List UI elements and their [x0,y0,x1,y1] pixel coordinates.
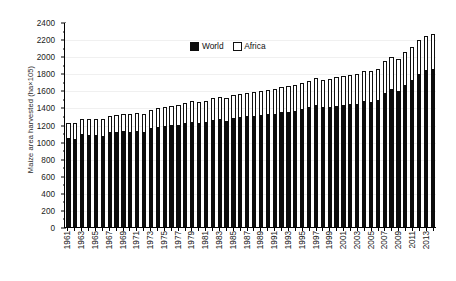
stacked-bar[interactable] [293,85,297,227]
stacked-bar[interactable] [307,81,311,227]
bar-segment-world [362,101,366,227]
stacked-bar[interactable] [355,74,359,227]
stacked-bar[interactable] [197,102,201,227]
stacked-bar[interactable] [169,106,173,227]
bar-slot [223,23,230,227]
stacked-bar[interactable] [252,92,256,227]
stacked-bar[interactable] [204,101,208,227]
stacked-bar[interactable] [389,57,393,227]
bar-segment-world [238,117,242,227]
bar-segment-africa [238,94,242,117]
bar-slot [237,23,244,227]
bar-segment-africa [328,79,332,107]
bar-segment-africa [410,47,414,80]
bar-segment-world [183,123,187,227]
bar-slot [203,23,210,227]
bar-segment-world [73,139,77,227]
stacked-bar[interactable] [259,91,263,227]
stacked-bar[interactable] [156,108,160,227]
x-axis-slot: 1999 [326,229,333,281]
stacked-bar[interactable] [334,77,338,227]
x-axis-labels: 1961196319651967196919711973197519771979… [64,229,436,281]
stacked-bar[interactable] [314,78,318,227]
stacked-bar[interactable] [87,119,91,227]
bar-slot [306,23,313,227]
bar-segment-africa [224,98,228,120]
stacked-bar[interactable] [362,71,366,227]
stacked-bar[interactable] [94,119,98,227]
stacked-bar[interactable] [176,105,180,227]
stacked-bar[interactable] [431,34,435,227]
stacked-bar[interactable] [396,59,400,227]
y-axis-tick-label: 1000 [37,138,55,147]
stacked-bar[interactable] [163,107,167,227]
bar-segment-africa [300,83,304,109]
stacked-bar[interactable] [224,98,228,227]
stacked-bar[interactable] [273,89,277,227]
x-axis-tick [198,228,199,231]
bar-segment-world [348,104,352,227]
bar-segment-world [190,122,194,227]
stacked-bar[interactable] [403,52,407,227]
stacked-bar[interactable] [369,71,373,227]
y-axis-tick-label: 800 [41,155,55,164]
stacked-bar[interactable] [321,80,325,227]
bar-slot [271,23,278,227]
bar-segment-world [266,114,270,227]
bar-slot [423,23,430,227]
bar-segment-world [169,125,173,227]
bar-segment-world [121,131,125,227]
stacked-bar[interactable] [279,87,283,227]
bar-segment-africa [321,80,325,108]
stacked-bar[interactable] [410,47,414,227]
stacked-bar[interactable] [341,76,345,227]
x-axis-slot: 1993 [285,229,292,281]
stacked-bar[interactable] [300,83,304,227]
stacked-bar[interactable] [348,75,352,227]
bar-segment-africa [273,89,277,114]
stacked-bar[interactable] [266,90,270,227]
stacked-bar[interactable] [108,116,112,227]
stacked-bar[interactable] [128,114,132,227]
x-axis-tick [309,228,310,231]
stacked-bar[interactable] [383,61,387,227]
bar-segment-africa [245,93,249,116]
bar-segment-world [410,80,414,227]
bar-segment-africa [135,113,139,131]
bar-segment-africa [389,57,393,89]
stacked-bar[interactable] [286,86,290,227]
x-axis-slot: 1991 [271,229,278,281]
y-axis-tick-label: 600 [41,172,55,181]
stacked-bar[interactable] [328,79,332,227]
stacked-bar[interactable] [73,123,77,227]
x-axis-tick [143,228,144,231]
stacked-bar[interactable] [66,123,70,227]
stacked-bar[interactable] [424,36,428,227]
stacked-bar[interactable] [231,95,235,227]
stacked-bar[interactable] [142,114,146,227]
stacked-bar[interactable] [190,101,194,227]
stacked-bar[interactable] [238,94,242,227]
stacked-bar[interactable] [183,103,187,227]
bar-segment-world [211,120,215,227]
legend-item[interactable]: Africa [233,41,266,51]
stacked-bar[interactable] [149,110,153,227]
stacked-bar[interactable] [114,115,118,227]
bar-segment-world [259,115,263,227]
x-axis-slot: 2005 [367,229,374,281]
x-axis-slot: 1979 [188,229,195,281]
stacked-bar[interactable] [218,97,222,227]
stacked-bar[interactable] [417,40,421,227]
stacked-bar[interactable] [376,69,380,227]
bar-slot [216,23,223,227]
maize-area-harvested-chart: Maize area harvested (ha×105) 0200400600… [0,0,456,281]
stacked-bar[interactable] [121,114,125,227]
bar-slot [285,23,292,227]
stacked-bar[interactable] [80,119,84,227]
stacked-bar[interactable] [101,119,105,227]
stacked-bar[interactable] [245,93,249,227]
stacked-bar[interactable] [135,113,139,227]
x-axis-tick [185,228,186,231]
stacked-bar[interactable] [211,98,215,227]
legend-item[interactable]: World [190,41,223,51]
